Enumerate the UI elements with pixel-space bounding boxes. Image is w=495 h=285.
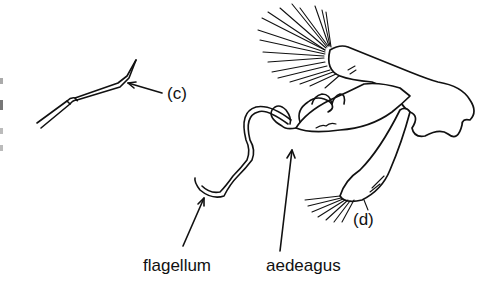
panel-d-drawing bbox=[195, 4, 474, 222]
illustration bbox=[0, 0, 495, 285]
panel-c-drawing bbox=[37, 60, 162, 128]
flagellum-arrow bbox=[183, 198, 204, 246]
panel-label-c: (c) bbox=[167, 85, 187, 102]
aedeagus-arrow bbox=[280, 150, 295, 251]
label-aedeagus: aedeagus bbox=[266, 257, 341, 274]
panel-label-d: (d) bbox=[353, 211, 374, 228]
label-flagellum: flagellum bbox=[143, 257, 211, 274]
